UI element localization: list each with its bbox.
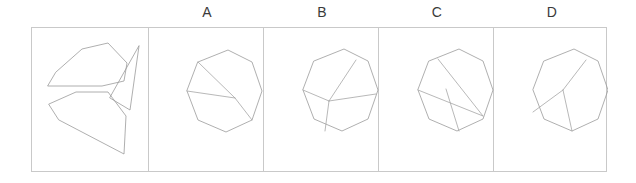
cut-line-d-1 [563, 60, 586, 90]
pieces-panel[interactable] [32, 28, 149, 171]
puzzle-frame [31, 27, 607, 172]
cut-line-b-1 [329, 60, 356, 101]
cut-line-b-4 [329, 94, 376, 101]
cut-line-b-3 [325, 101, 329, 131]
option-label-a: A [187, 3, 227, 21]
cut-line-c-3 [446, 89, 459, 131]
cut-line-a-1 [198, 62, 235, 98]
option-panel-a[interactable] [149, 28, 264, 171]
option-labels-row: A B C D [0, 0, 636, 27]
cut-line-a-2 [187, 91, 235, 98]
option-panel-c[interactable] [379, 28, 494, 171]
piece-bottom-polygon [49, 92, 126, 154]
option-label-d: D [532, 3, 572, 21]
cut-line-a-3 [235, 98, 252, 120]
option-panel-d[interactable] [494, 28, 608, 171]
piece-top-pentagon [48, 43, 127, 86]
option-label-b: B [302, 3, 342, 21]
octagon-outline-d [533, 49, 608, 131]
option-label-c: C [417, 3, 457, 21]
option-panel-b[interactable] [264, 28, 379, 171]
cut-line-d-3 [563, 90, 572, 131]
octagon-outline-b [303, 49, 378, 131]
puzzle-figure: A B C D [0, 0, 636, 183]
cut-line-c-1 [438, 59, 483, 116]
